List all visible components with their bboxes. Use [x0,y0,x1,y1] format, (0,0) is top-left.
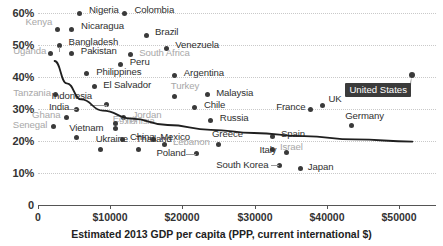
scatter-chart: 60% 50% 40% 30% 20% 10% 0 NigeriaColombi… [0,0,443,246]
xtickmark-30000 [255,205,256,209]
xtickmark-0 [38,205,39,209]
xtick-40000: $40000 [297,211,357,223]
xtick-0: 0 [8,211,68,223]
xtick-30000: $30000 [225,211,285,223]
xtickmark-50000 [399,205,400,209]
callout-united-states[interactable]: United States [345,83,411,97]
xtick-50000: $50000 [369,211,429,223]
xtickmark-20000 [182,205,183,209]
xtickmark-40000 [327,205,328,209]
xtick-10000: $10000 [80,211,140,223]
plot-area: 60% 50% 40% 30% 20% 10% 0 NigeriaColombi… [0,0,443,246]
xtick-20000: $20000 [152,211,212,223]
callout-pointer [0,0,443,246]
x-axis-title: Estimated 2013 GDP per capita (PPP, curr… [0,228,443,240]
xtickmark-10000 [110,205,111,209]
x-axis-line [38,205,436,206]
